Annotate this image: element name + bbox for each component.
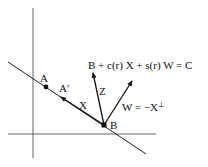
point-b-dot bbox=[102, 123, 107, 128]
point-a-dot bbox=[44, 85, 49, 90]
vector-w-label: W = −X⊥ bbox=[122, 101, 165, 113]
vector-z-label: Z bbox=[99, 85, 106, 97]
point-a-label: A bbox=[40, 72, 48, 84]
vector-z-arrow bbox=[93, 73, 104, 125]
vector-x-label: X bbox=[79, 99, 87, 111]
point-a-prime-label: A′ bbox=[59, 82, 69, 94]
point-b-label: B bbox=[110, 119, 117, 131]
vector-diagram: A A′ X Z B W = −X⊥ B + c(r) X + s(r) W =… bbox=[0, 0, 208, 167]
vector-w-equation: W = −X bbox=[122, 101, 158, 113]
equation-label: B + c(r) X + s(r) W = C bbox=[88, 59, 192, 72]
perp-superscript: ⊥ bbox=[158, 101, 165, 109]
